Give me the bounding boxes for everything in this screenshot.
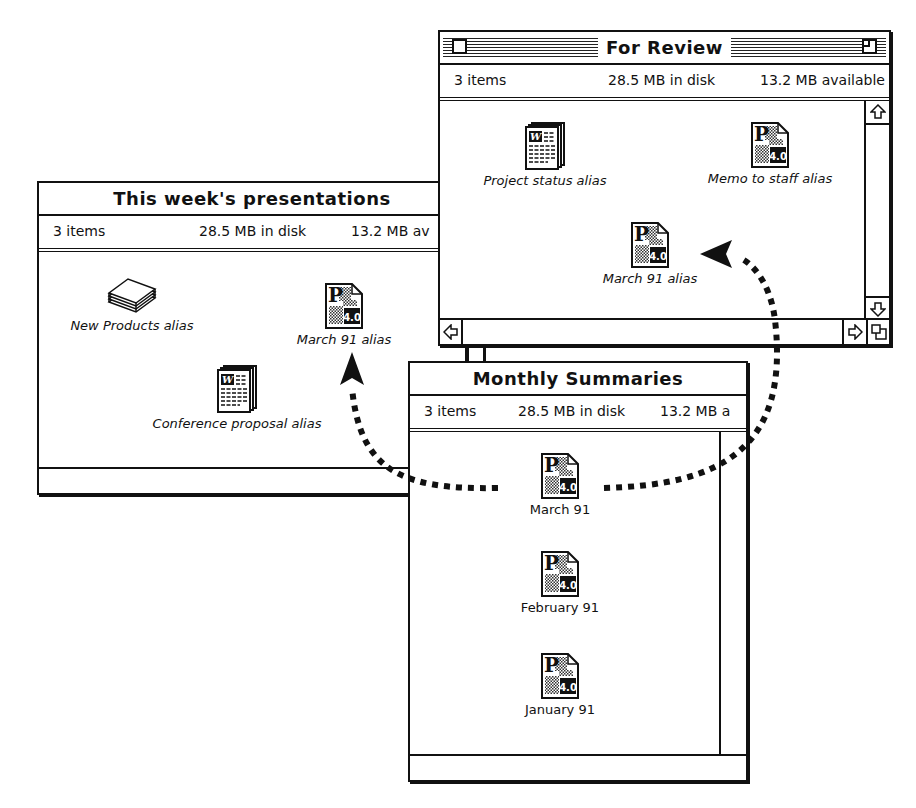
title-bar[interactable]: This week's presentations <box>39 183 465 216</box>
size-box[interactable] <box>866 320 889 344</box>
icon-new-products-alias[interactable]: New Products alias <box>57 276 207 333</box>
vertical-scrollbar[interactable] <box>719 432 746 780</box>
window-content: Project status alias Memo to staff alias… <box>440 101 864 318</box>
arrow-right-icon <box>847 324 863 340</box>
item-count: 3 items <box>53 216 105 246</box>
icon-label: February 91 <box>490 600 630 615</box>
window-title: Monthly Summaries <box>465 368 692 389</box>
horizontal-scrollbar[interactable] <box>39 467 465 493</box>
arrow-down-icon <box>870 301 886 317</box>
zoom-box[interactable] <box>862 39 877 54</box>
info-bar: 3 items 28.5 MB in disk 13.2 MB availabl… <box>440 65 889 101</box>
icon-january-91[interactable]: January 91 <box>490 652 630 717</box>
scroll-right-button[interactable] <box>842 320 865 344</box>
scroll-up-button[interactable] <box>866 101 889 125</box>
icon-conference-proposal-alias[interactable]: Conference proposal alias <box>137 364 337 431</box>
disk-usage: 28.5 MB in disk <box>199 216 306 246</box>
info-bar: 3 items 28.5 MB in disk 13.2 MB a <box>410 396 746 432</box>
icon-label: March 91 <box>490 502 630 517</box>
window-title: This week's presentations <box>105 188 398 209</box>
icon-memo-to-staff-alias[interactable]: Memo to staff alias <box>690 121 850 186</box>
word-doc-icon <box>216 364 258 414</box>
word-doc-icon <box>524 121 566 171</box>
disk-available: 13.2 MB av <box>351 216 430 246</box>
arrow-up-icon <box>870 104 886 120</box>
icon-label: January 91 <box>490 702 630 717</box>
resize-icon <box>871 324 887 340</box>
arrow-left-icon <box>443 324 459 340</box>
item-count: 3 items <box>454 65 506 95</box>
info-bar: 3 items 28.5 MB in disk 13.2 MB av <box>39 216 465 252</box>
icon-label: New Products alias <box>57 318 207 333</box>
icon-label: March 91 alias <box>590 271 710 286</box>
stack-icon <box>106 276 158 316</box>
icon-february-91[interactable]: February 91 <box>490 550 630 615</box>
vertical-scrollbar[interactable] <box>864 101 889 320</box>
window-content: New Products alias March 91 alias Confer… <box>39 252 465 467</box>
window-monthly-summaries[interactable]: Monthly Summaries 3 items 28.5 MB in dis… <box>408 361 748 782</box>
disk-available: 13.2 MB available <box>760 65 885 95</box>
icon-label: Conference proposal alias <box>137 416 337 431</box>
persuasion-doc-icon <box>630 221 670 269</box>
window-title: For Review <box>598 37 731 58</box>
scroll-left-button[interactable] <box>440 320 463 344</box>
icon-label: March 91 alias <box>279 332 409 347</box>
window-presentations[interactable]: This week's presentations 3 items 28.5 M… <box>37 181 467 495</box>
title-bar[interactable]: For Review <box>440 32 889 65</box>
persuasion-doc-icon <box>750 121 790 169</box>
disk-available: 13.2 MB a <box>660 396 730 426</box>
persuasion-doc-icon <box>540 550 580 598</box>
icon-march-91-alias[interactable]: March 91 alias <box>590 221 710 286</box>
icon-march-91[interactable]: March 91 <box>490 452 630 517</box>
icon-march-91-alias[interactable]: March 91 alias <box>279 282 409 347</box>
horizontal-scrollbar[interactable] <box>440 318 889 344</box>
item-count: 3 items <box>424 396 476 426</box>
icon-project-status-alias[interactable]: Project status alias <box>470 121 620 188</box>
scroll-down-button[interactable] <box>866 296 889 320</box>
title-bar[interactable]: Monthly Summaries <box>410 363 746 396</box>
disk-usage: 28.5 MB in disk <box>608 65 715 95</box>
persuasion-doc-icon <box>324 282 364 330</box>
horizontal-scrollbar[interactable] <box>410 754 746 780</box>
close-box[interactable] <box>452 39 467 54</box>
icon-label: Project status alias <box>470 173 620 188</box>
window-content: March 91 February 91 January 91 <box>410 432 719 754</box>
disk-usage: 28.5 MB in disk <box>518 396 625 426</box>
window-for-review[interactable]: For Review 3 items 28.5 MB in disk 13.2 … <box>438 30 891 346</box>
persuasion-doc-icon <box>540 652 580 700</box>
icon-label: Memo to staff alias <box>690 171 850 186</box>
persuasion-doc-icon <box>540 452 580 500</box>
